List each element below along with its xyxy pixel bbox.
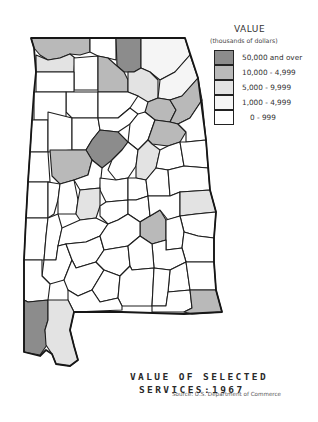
county-lamar — [30, 120, 48, 152]
choropleth-map — [0, 0, 318, 422]
legend-swatch-5000 — [214, 80, 234, 95]
legend-label-50000-plus: 50,000 and over — [242, 53, 302, 62]
legend-title: VALUE — [234, 24, 265, 34]
county-hale — [58, 180, 78, 214]
county-perry — [76, 188, 100, 220]
legend-subtitle: (thousands of dollars) — [210, 37, 278, 44]
county-chilton — [100, 178, 128, 202]
county-franklin — [36, 72, 74, 92]
county-winston — [66, 92, 98, 118]
legend-swatch-50000-plus — [214, 50, 234, 65]
county-baldwin — [45, 300, 78, 366]
county-pickens — [28, 152, 50, 182]
map-title-line1: VALUE OF SELECTED — [130, 371, 268, 382]
legend-label-5000: 5,000 - 9,999 — [242, 83, 291, 92]
legend-label-10000: 10,000 - 4,999 — [242, 68, 296, 77]
legend-swatch-0 — [214, 110, 234, 125]
county-madison — [116, 38, 141, 72]
county-bullock — [166, 216, 184, 250]
legend-label-0: 0 - 999 — [250, 113, 276, 122]
county-henry — [186, 262, 216, 290]
county-fayette — [48, 112, 72, 152]
legend-label-1000: 1,000 - 4,999 — [242, 98, 291, 107]
county-clay — [156, 142, 184, 170]
county-lawrence — [74, 56, 98, 90]
legend-swatch-1000 — [214, 95, 234, 110]
county-covington — [118, 266, 154, 306]
county-sumter — [26, 182, 48, 218]
county-mobile — [24, 300, 48, 355]
source-note: Source: U.S. Department of Commerce — [172, 391, 281, 397]
legend-swatch-10000 — [214, 65, 234, 80]
counties — [24, 38, 222, 366]
county-randolph — [180, 140, 208, 168]
